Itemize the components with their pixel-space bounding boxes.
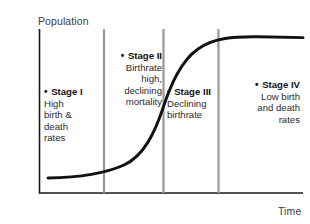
stage-3-line-2: birthrate [167, 109, 217, 121]
stage-2-line-3: declining [104, 85, 162, 97]
stage-3-annotation: • Stage III Declining birthrate [167, 86, 217, 121]
x-axis-label: Time [278, 205, 301, 217]
stage-2-line-4: mortality [104, 96, 162, 108]
stage-1-heading-text: Stage I [51, 86, 82, 97]
bullet-icon: • [167, 86, 172, 97]
stage-3-heading-text: Stage III [174, 86, 211, 97]
stage-4-heading: • Stage IV [224, 79, 300, 91]
stage-3-heading: • Stage III [167, 86, 217, 98]
stage-1-heading: • Stage I [44, 86, 98, 98]
stage-4-line-2: and death [224, 102, 300, 114]
bullet-icon: • [121, 50, 126, 61]
stage-2-line-1: Birthrate [104, 62, 162, 74]
stage-1-annotation: • Stage I High birth & death rates [44, 86, 98, 144]
demographic-transition-chart: Population Time • Stage I High birth & d… [0, 0, 310, 224]
stage-1-line-2: birth & [44, 109, 98, 121]
stage-2-annotation: • Stage II Birthrate high, declining mor… [104, 50, 162, 108]
stage-3-line-1: Declining [167, 98, 217, 110]
bullet-icon: • [255, 79, 260, 90]
stage-1-line-4: rates [44, 132, 98, 144]
stage-2-heading: • Stage II [104, 50, 162, 62]
bullet-icon: • [44, 86, 49, 97]
y-axis-label: Population [38, 15, 89, 27]
stage-4-annotation: • Stage IV Low birth and death rates [224, 79, 300, 125]
stage-2-heading-text: Stage II [128, 50, 162, 61]
stage-1-line-1: High [44, 98, 98, 110]
stage-1-line-3: death [44, 121, 98, 133]
stage-4-line-1: Low birth [224, 91, 300, 103]
stage-2-line-2: high, [104, 73, 162, 85]
stage-4-line-3: rates [224, 114, 300, 126]
stage-4-heading-text: Stage IV [262, 79, 300, 90]
